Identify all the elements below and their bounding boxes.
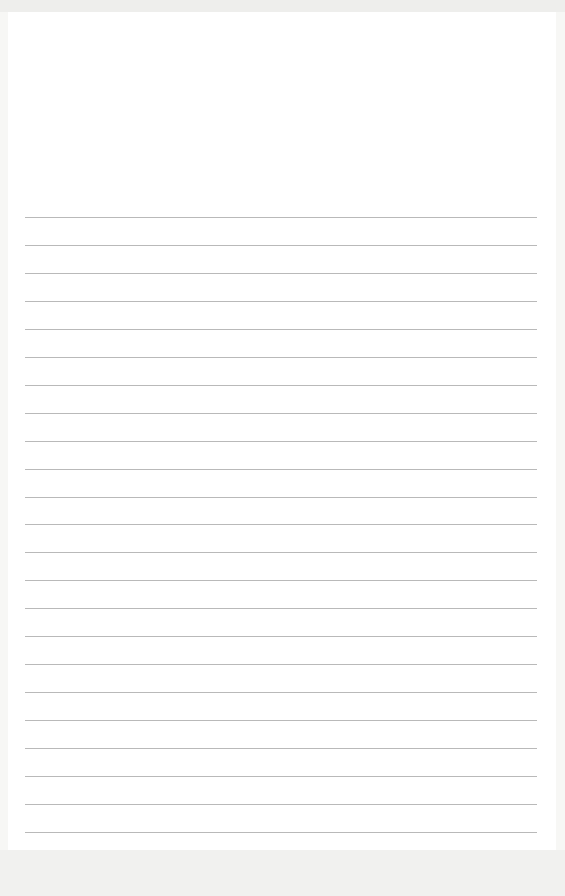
ruled-line — [25, 385, 537, 386]
ruled-line — [25, 469, 537, 470]
ruled-line — [25, 301, 537, 302]
ruled-line — [25, 664, 537, 665]
ruled-line — [25, 273, 537, 274]
ruled-line — [25, 832, 537, 833]
ruled-line — [25, 580, 537, 581]
ruled-line — [25, 497, 537, 498]
ruled-line — [25, 636, 537, 637]
paper-bottom-edge — [0, 850, 565, 896]
ruled-line — [25, 692, 537, 693]
paper-top-edge — [0, 0, 565, 12]
ruled-line — [25, 245, 537, 246]
ruled-line — [25, 608, 537, 609]
paper-sheet — [8, 12, 556, 884]
ruled-line — [25, 357, 537, 358]
ruled-line — [25, 748, 537, 749]
ruled-line — [25, 329, 537, 330]
ruled-line — [25, 524, 537, 525]
ruled-line — [25, 804, 537, 805]
ruled-line — [25, 776, 537, 777]
ruled-line — [25, 720, 537, 721]
ruled-line — [25, 441, 537, 442]
ruled-line — [25, 217, 537, 218]
ruled-line — [25, 552, 537, 553]
ruled-line — [25, 413, 537, 414]
